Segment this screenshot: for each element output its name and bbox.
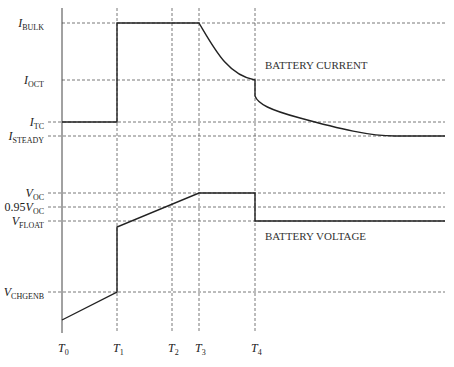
label-v-float: VFLOAT — [12, 214, 44, 230]
label-i-oct: IOCT — [23, 73, 44, 89]
battery-current-trace — [62, 23, 445, 136]
label-t0: T0 — [58, 341, 69, 357]
label-t4: T4 — [251, 341, 262, 357]
caption-battery-voltage: BATTERY VOLTAGE — [265, 230, 366, 242]
label-0-95v-oc: 0.95VOC — [5, 200, 44, 216]
label-i-bulk: IBULK — [17, 16, 44, 32]
label-t1: T1 — [113, 341, 124, 357]
caption-battery-current: BATTERY CURRENT — [265, 59, 368, 71]
charge-profile-diagram: IBULKIOCTITCISTEADY VOC0.95VOCVFLOATVCHG… — [0, 0, 454, 367]
label-v-chgenb: VCHGENB — [4, 285, 44, 301]
battery-voltage-trace — [62, 193, 445, 320]
label-t3: T3 — [195, 341, 206, 357]
label-t2: T2 — [168, 341, 179, 357]
label-i-steady: ISTEADY — [7, 129, 44, 145]
label-i-tc: ITC — [29, 115, 44, 131]
